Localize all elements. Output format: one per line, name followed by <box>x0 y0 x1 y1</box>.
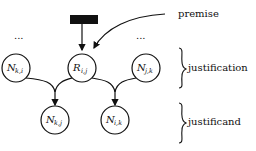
svg-text:i,k: i,k <box>114 119 122 127</box>
node-n-jk: N j,k <box>132 54 160 82</box>
svg-text:j,k: j,k <box>143 67 153 75</box>
svg-text:k,i: k,i <box>15 67 23 75</box>
premise-box <box>70 15 98 24</box>
premise-label: premise <box>178 8 219 19</box>
premise-pointer-arrow <box>94 14 165 48</box>
node-n-kj: N k,j <box>41 106 69 134</box>
join-left <box>26 78 72 92</box>
join-right <box>92 78 136 92</box>
justification-diagram: N k,i R i,j N j,k N k,j N i,k <box>0 0 256 151</box>
justification-label: justification <box>188 62 248 73</box>
ellipsis-left: ... <box>14 30 24 41</box>
svg-text:k,j: k,j <box>54 119 62 127</box>
node-n-ik: N i,k <box>101 106 129 134</box>
svg-text:R: R <box>72 62 81 73</box>
ellipsis-right: ... <box>136 30 146 41</box>
justificand-label: justificand <box>188 116 241 127</box>
svg-text:i,j: i,j <box>81 67 87 75</box>
justification-brace <box>179 48 186 88</box>
justificand-brace <box>179 103 186 143</box>
node-r-ij: R i,j <box>68 54 96 82</box>
node-n-ki: N k,i <box>2 54 30 82</box>
